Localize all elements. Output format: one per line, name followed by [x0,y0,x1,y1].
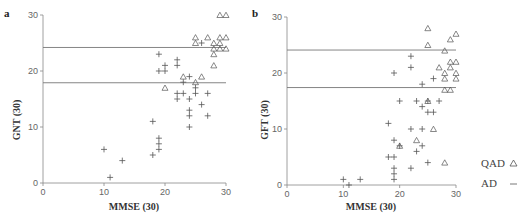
plus-marker [430,76,436,82]
plus-marker [385,154,391,160]
plus-marker [193,90,199,96]
legend-label-qad: QAD [481,157,505,169]
panel-b-label: b [252,7,258,19]
y-tick-label: 10 [272,124,282,134]
y-tick-label: 0 [33,178,38,188]
plus-marker [162,68,168,74]
triangle-marker [211,51,217,56]
triangle-marker [442,160,448,165]
panel-a-ylabel: GNT (30) [11,100,23,141]
triangle-marker [425,25,431,30]
triangle-marker [162,85,168,90]
plus-marker [174,96,180,102]
plus-marker [391,70,397,76]
plus-marker [156,146,162,152]
triangle-icon [510,160,517,166]
plus-marker [186,107,192,113]
triangle-marker [223,12,229,17]
panel-b-scatter: b GFT (30) MMSE (30) 01020300102030 [252,7,461,213]
plus-marker [419,126,425,132]
plus-marker [436,98,442,104]
triangle-marker [211,40,217,45]
x-tick-label: 10 [338,189,348,199]
plus-marker [186,96,192,102]
y-tick-label: 20 [272,68,282,78]
panel-b-axes: 01020300102030 [272,12,461,199]
plus-marker [150,152,156,158]
plus-marker [391,176,397,182]
panel-a-reference-lines [43,47,226,82]
plus-marker [397,98,403,104]
plus-marker [156,51,162,57]
plus-marker [340,176,346,182]
triangle-marker [442,70,448,75]
plus-marker [174,62,180,68]
panel-a-xlabel: MMSE (30) [109,201,159,213]
triangle-marker [223,35,229,40]
triangle-marker [414,137,420,142]
y-tick-label: 30 [28,10,38,20]
triangle-marker [180,74,186,79]
plus-marker [357,176,363,182]
x-tick-label: 20 [395,189,405,199]
plus-marker [186,113,192,119]
panel-b-ylabel: GFT (30) [259,100,271,140]
triangle-marker [447,37,453,42]
triangle-marker [430,126,436,131]
figure: a GNT (30) MMSE (30) 01020300102030 b GF… [0,0,523,220]
x-tick-label: 0 [284,189,289,199]
plus-marker [408,126,414,132]
plus-marker [180,79,186,85]
plus-marker [385,120,391,126]
plus-marker [391,137,397,143]
plus-marker [156,135,162,141]
triangle-marker [211,63,217,68]
y-tick-label: 20 [28,66,38,76]
x-tick-label: 20 [160,187,170,197]
plus-marker [156,68,162,74]
triangle-marker [193,79,199,84]
triangle-marker [453,59,459,64]
triangle-marker [217,46,223,51]
plus-marker [425,160,431,166]
triangle-marker [199,74,205,79]
plus-marker [391,165,397,171]
triangle-marker [453,70,459,75]
panel-a-points [101,12,229,180]
plus-marker [419,81,425,87]
plus-marker [425,109,431,115]
plus-marker [162,62,168,68]
plus-marker [119,158,125,164]
legend-label-ad: AD [481,177,497,189]
panel-a-scatter: a GNT (30) MMSE (30) 01020300102030 [4,7,231,213]
plus-marker [414,98,420,104]
plus-marker [107,174,113,180]
plus-marker [346,182,352,188]
x-tick-label: 30 [221,187,231,197]
triangle-marker [453,76,459,81]
plus-marker [186,74,192,80]
plus-marker [391,154,397,160]
triangle-marker [217,35,223,40]
plus-marker [430,109,436,115]
triangle-marker [211,46,217,51]
plus-marker [205,90,211,96]
panel-a-label: a [4,7,10,19]
triangle-marker [193,35,199,40]
plus-marker [186,124,192,130]
plus-marker [397,143,403,149]
plus-marker [408,165,414,171]
y-tick-label: 0 [277,180,282,190]
plus-marker [419,104,425,110]
plus-marker [419,143,425,149]
plus-marker [156,141,162,147]
legend-item-ad: AD [481,177,517,189]
triangle-marker [217,12,223,17]
x-tick-label: 10 [99,187,109,197]
triangle-marker [223,46,229,51]
y-tick-label: 10 [28,122,38,132]
plus-marker [408,64,414,70]
plus-marker [408,53,414,59]
triangle-marker [425,42,431,47]
panel-a-axes: 01020300102030 [28,10,231,197]
